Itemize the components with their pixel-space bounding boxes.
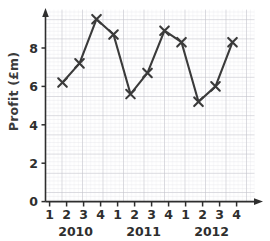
x-group-label: 2010 <box>46 226 106 239</box>
grid-background <box>46 10 255 202</box>
x-tick-label: 3 <box>143 209 161 222</box>
y-tick-label: 0 <box>20 196 38 209</box>
plot-area <box>0 0 270 241</box>
x-tick-label: 2 <box>126 209 144 222</box>
x-tick-label: 3 <box>75 209 93 222</box>
x-tick-label: 4 <box>160 209 178 222</box>
y-tick-label: 6 <box>20 81 38 94</box>
x-tick-label: 2 <box>58 209 76 222</box>
x-tick-label: 4 <box>228 209 246 222</box>
y-tick-label: 2 <box>20 158 38 171</box>
x-tick-label: 1 <box>109 209 127 222</box>
y-axis-tick-labels: 0 2 4 6 8 <box>14 0 38 241</box>
y-tick-label: 4 <box>20 120 38 133</box>
x-tick-label: 3 <box>211 209 229 222</box>
y-tick-label: 8 <box>20 43 38 56</box>
x-group-label: 2012 <box>182 226 242 239</box>
x-tick-label: 4 <box>92 209 110 222</box>
x-group-label: 2011 <box>114 226 174 239</box>
x-tick-label: 1 <box>177 209 195 222</box>
x-tick-label: 1 <box>41 209 59 222</box>
profit-line-chart: Profit (£m) 0 2 4 6 8 <box>0 0 270 241</box>
x-tick-label: 2 <box>194 209 212 222</box>
